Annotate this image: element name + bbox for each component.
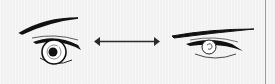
double-arrow-icon	[94, 37, 160, 46]
narrow-eye-icon	[172, 29, 254, 58]
right-edge-divider	[265, 0, 266, 84]
eye-comparison-illustration	[0, 0, 275, 84]
illustration-svg	[0, 0, 275, 84]
round-eye-icon	[20, 18, 81, 64]
